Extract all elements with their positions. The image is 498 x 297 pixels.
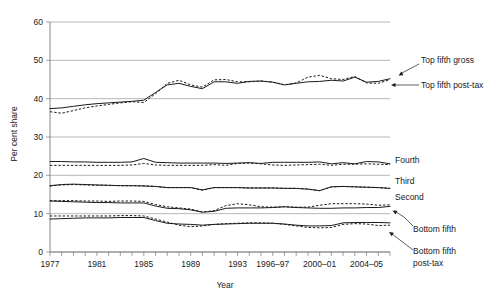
y-tick-label: 20 (34, 170, 44, 180)
chart-container: 6050403020100 197719811985198919931996–9… (0, 0, 498, 297)
leader-top-fifth-gross (400, 64, 419, 74)
y-tick-labels-group: 6050403020100 (34, 17, 44, 257)
y-tick-label: 50 (34, 55, 44, 65)
annotation-top-fifth-posttax: Top fifth post-tax (421, 80, 484, 90)
line-chart: 6050403020100 197719811985198919931996–9… (0, 0, 498, 297)
annotation-second: Second (395, 192, 424, 202)
x-axis-title: Year (216, 280, 233, 290)
x-tick-label: 1977 (41, 259, 60, 269)
annotation-bottom-fifth: Bottom fifth (413, 224, 456, 234)
annotation-fourth: Fourth (395, 155, 420, 165)
y-tick-marks-group (46, 22, 50, 252)
x-tick-marks-group (50, 252, 390, 256)
data-series-group (50, 75, 390, 228)
annotation-arrowhead (391, 83, 396, 87)
annotation-bottom-fifth-posttax-line1: Bottom fifth (413, 246, 456, 256)
annotation-bottom-fifth-posttax-line2: post-tax (413, 258, 444, 268)
y-tick-label: 40 (34, 94, 44, 104)
series-annotations-group: Top fifth grossTop fifth post-taxFourthT… (389, 55, 484, 268)
leader-bottom-fifth (396, 212, 413, 226)
series-line-fourth (50, 158, 390, 163)
x-tick-labels-group: 197719811985198919931996–972000–012004–0… (41, 259, 384, 269)
y-tick-label: 0 (38, 247, 43, 257)
leader-bottom-fifth-posttax (392, 234, 413, 250)
x-tick-label: 1981 (87, 259, 106, 269)
x-tick-label: 1985 (134, 259, 153, 269)
y-axis-title: Per cent share (9, 106, 19, 162)
annotation-top-fifth-gross: Top fifth gross (421, 55, 474, 65)
x-tick-label: 2004–05 (350, 259, 383, 269)
x-tick-label: 2000–01 (303, 259, 336, 269)
series-line-second (50, 201, 390, 212)
x-tick-label: 1993 (228, 259, 247, 269)
series-line-bottom-fifth (50, 218, 390, 226)
x-tick-label: 1996–97 (256, 259, 289, 269)
series-line-top-fifth-gross (50, 77, 390, 108)
y-tick-label: 10 (34, 209, 44, 219)
annotation-arrowhead (389, 232, 394, 236)
x-tick-label: 1989 (181, 259, 200, 269)
annotation-third: Third (395, 176, 415, 186)
y-tick-label: 30 (34, 132, 44, 142)
y-tick-label: 60 (34, 17, 44, 27)
